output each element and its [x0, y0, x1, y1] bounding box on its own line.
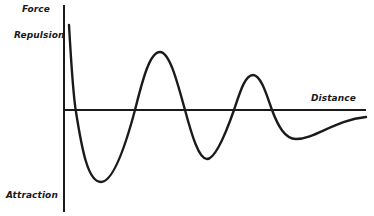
- x-axis-title: Distance: [311, 93, 356, 103]
- attraction-label: Attraction: [6, 190, 58, 200]
- repulsion-label: Repulsion: [14, 30, 64, 40]
- force-curve: [69, 25, 366, 182]
- y-axis-title: Force: [22, 4, 50, 14]
- force-distance-diagram: Force Repulsion Attraction Distance: [0, 0, 374, 216]
